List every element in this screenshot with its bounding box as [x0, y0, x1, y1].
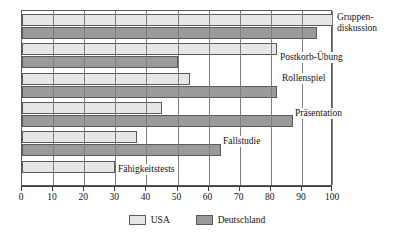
bar-chart-figure: Gruppen- diskussion Postkorb-Übung Rolle… — [0, 0, 394, 235]
category-label-postkorb-uebung: Postkorb-Übung — [279, 52, 344, 63]
category-label-gruppendiskussion: Gruppen- diskussion — [336, 12, 390, 34]
category-label-fallstudie: Fallstudie — [222, 136, 261, 147]
category-label-praesentation: Präsentation — [294, 108, 343, 119]
category-labels-layer: Gruppen- diskussion Postkorb-Übung Rolle… — [0, 0, 394, 235]
category-label-faehigkeitstests: Fähigkeitstests — [117, 164, 175, 175]
category-label-gruppendiskussion-line1: Gruppen- — [337, 12, 373, 22]
category-label-rollenspiel: Rollenspiel — [281, 73, 326, 84]
category-label-gruppendiskussion-line2: diskussion — [337, 23, 377, 33]
